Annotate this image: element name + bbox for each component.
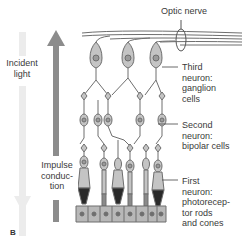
third-neuron-label: Third neuron: ganglion cells (182, 62, 216, 104)
second-neuron-line-3: bipolar cells (182, 141, 230, 152)
third-neuron-line-2: neuron: (182, 73, 216, 84)
impulse-line-1: Impulse (36, 160, 78, 171)
optic-nerve-text: Optic nerve (161, 6, 207, 16)
impulse-line-2: conduc- (36, 171, 78, 182)
impulse-conduction-label: Impulse conduc- tion (36, 160, 78, 192)
second-neuron-line-1: Second (182, 120, 230, 131)
incident-light-label: Incident light (0, 58, 44, 79)
optic-nerve-label: Optic nerve (152, 6, 216, 17)
panel-letter: B (10, 228, 16, 236)
incident-light-line-1: Incident (0, 58, 44, 69)
impulse-line-3: tion (36, 181, 78, 192)
impulse-conduction-arrow (47, 30, 65, 222)
first-neuron-line-5: and cones (182, 218, 230, 229)
optic-nerve-fibers (82, 20, 242, 51)
third-neuron-line-3: ganglion (182, 83, 216, 94)
first-neuron-label: First neuron: photorecep- tor rods and c… (182, 176, 230, 229)
second-neuron-label: Second neuron: bipolar cells (182, 120, 230, 152)
second-neuron-line-2: neuron: (182, 131, 230, 142)
third-neuron-line-1: Third (182, 62, 216, 73)
photoreceptors (78, 140, 164, 206)
bipolar-cells (80, 92, 166, 152)
first-neuron-line-2: neuron: (182, 187, 230, 198)
first-neuron-line-3: photorecep- (182, 197, 230, 208)
incident-light-line-2: light (0, 69, 44, 80)
third-neuron-line-4: cells (182, 94, 216, 105)
first-neuron-line-4: tor rods (182, 208, 230, 219)
pigment-epithelium (76, 206, 166, 222)
ganglion-cells (84, 36, 175, 95)
first-neuron-line-1: First (182, 176, 230, 187)
